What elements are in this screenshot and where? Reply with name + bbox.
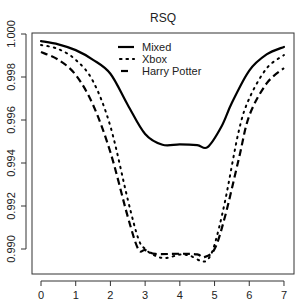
- legend-label: Xbox: [142, 53, 168, 65]
- x-tick-label: 3: [142, 289, 148, 301]
- y-axis: 0.9900.9920.9940.9960.9981.000: [5, 20, 26, 263]
- rsq-line-chart: RSQ 01234567 0.9900.9920.9940.9960.9981.…: [0, 0, 307, 304]
- y-tick-label: 0.996: [5, 106, 17, 134]
- y-tick-label: 0.990: [5, 235, 17, 263]
- x-axis: 01234567: [38, 281, 287, 301]
- x-tick-label: 4: [177, 289, 183, 301]
- x-tick-label: 1: [73, 289, 79, 301]
- y-tick-label: 1.000: [5, 20, 17, 48]
- y-tick-label: 0.998: [5, 63, 17, 91]
- x-tick-label: 5: [211, 289, 217, 301]
- y-tick-label: 0.994: [5, 149, 17, 177]
- x-tick-label: 7: [281, 289, 287, 301]
- chart-title: RSQ: [150, 11, 176, 25]
- legend-label: Harry Potter: [142, 65, 202, 77]
- x-tick-label: 0: [38, 289, 44, 301]
- legend-label: Mixed: [142, 41, 171, 53]
- y-tick-label: 0.992: [5, 192, 17, 220]
- x-tick-label: 2: [107, 289, 113, 301]
- legend: MixedXboxHarry Potter: [118, 41, 202, 77]
- series-harry-potter-line: [41, 52, 284, 257]
- x-tick-label: 6: [246, 289, 252, 301]
